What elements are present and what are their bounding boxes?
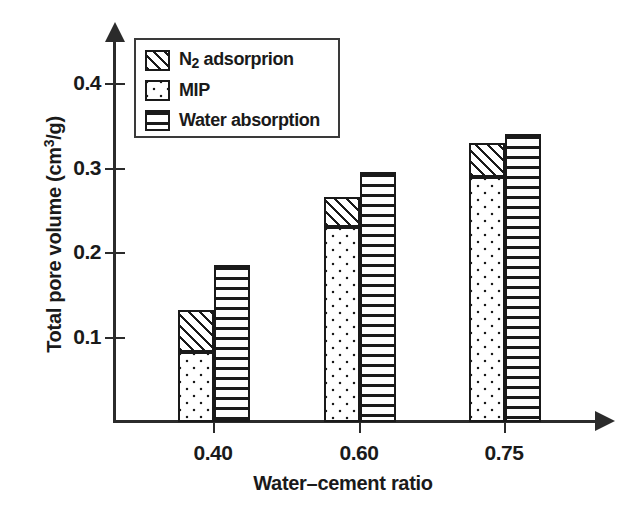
y-axis-title-text: Total pore volume (cm	[43, 147, 65, 353]
y-tick-mark	[105, 83, 125, 85]
x-tick-label: 0.40	[163, 441, 263, 465]
legend: N2 adsorprion MIP Water absorption	[134, 38, 340, 138]
legend-item-n2-adsorption: N2 adsorprion	[145, 45, 338, 75]
legend-label-n2-suffix: adsorprion	[199, 49, 294, 69]
x-axis-title: Water–cement ratio	[193, 472, 493, 495]
bar-mip-group-3	[469, 177, 505, 422]
y-tick-mark	[105, 168, 125, 170]
bar-water-absorption-group-2	[360, 172, 396, 422]
bar-n2-adsorption-group-3	[469, 143, 505, 177]
bar-water-absorption-group-1	[214, 265, 250, 422]
y-axis-title-tail: /g)	[43, 116, 65, 140]
bar-n2-adsorption-group-2	[324, 197, 360, 227]
y-tick-mark	[105, 252, 125, 254]
y-axis-title-exponent: 3	[41, 140, 57, 148]
legend-swatch-dots-icon	[145, 80, 170, 101]
legend-label-n2-subscript: 2	[192, 55, 199, 71]
bar-chart: 0.1 0.2 0.3 0.4 Total pore volume (cm3/g…	[0, 0, 631, 513]
x-axis-arrow-icon	[595, 411, 615, 431]
x-tick-label: 0.60	[309, 441, 409, 465]
x-tick-label: 0.75	[454, 441, 554, 465]
y-tick-mark	[105, 337, 125, 339]
y-axis-title: Total pore volume (cm3/g)	[41, 85, 66, 385]
legend-swatch-diagonal-hatch-icon	[145, 50, 170, 71]
legend-label-water-absorption: Water absorption	[179, 110, 320, 131]
legend-swatch-horizontal-lines-icon	[145, 110, 170, 131]
bar-mip-group-1	[178, 352, 214, 422]
legend-label-n2-adsorption: N2 adsorprion	[179, 49, 294, 71]
bar-mip-group-2	[324, 227, 360, 422]
legend-item-water-absorption: Water absorption	[145, 105, 338, 135]
y-axis-arrow-icon	[105, 22, 125, 42]
y-axis-line	[113, 40, 116, 423]
legend-item-mip: MIP	[145, 75, 338, 105]
bar-water-absorption-group-3	[505, 134, 541, 422]
bar-n2-adsorption-group-1	[178, 310, 214, 352]
legend-label-n2-prefix: N	[179, 49, 192, 69]
legend-label-mip: MIP	[179, 80, 210, 101]
